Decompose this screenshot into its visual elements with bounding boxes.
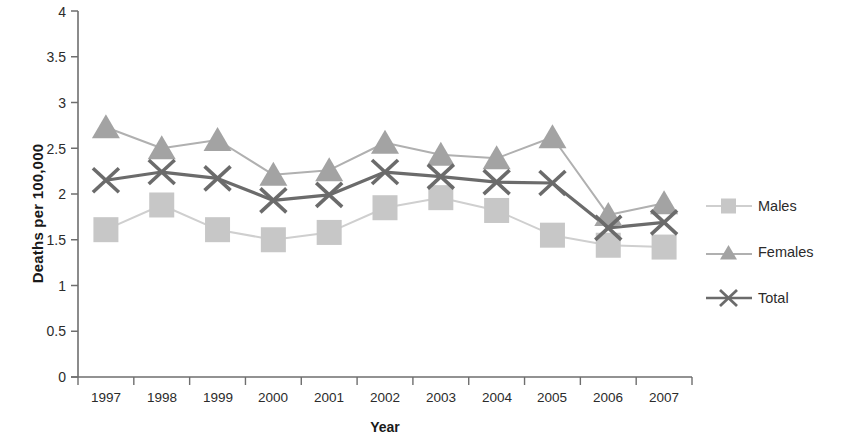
data-point-females-2006 [594,202,622,226]
x-marker-icon [706,288,752,308]
data-point-females-1999 [204,127,232,151]
data-point-males-2007 [652,235,677,260]
data-point-females-2002 [371,130,399,154]
data-point-males-2000 [261,227,286,252]
data-point-females-2007 [650,190,678,214]
legend-item-females[interactable]: Females [706,242,814,262]
data-point-males-1998 [149,192,174,217]
y-axis-ticks [71,11,78,377]
data-point-males-2003 [428,185,453,210]
legend-label-females: Females [758,244,814,260]
x-axis-ticks [78,377,692,385]
series-markers [92,114,678,259]
triangle-marker-icon [706,242,752,262]
data-point-females-2001 [315,157,343,181]
data-point-males-2004 [484,198,509,223]
data-point-males-1999 [205,217,230,242]
line-chart: Deaths per 100,000 Year 4 3.5 3 2.5 2 1.… [0,0,856,443]
legend-item-total[interactable]: Total [706,288,789,308]
data-point-males-2005 [540,223,565,248]
data-point-males-2002 [373,195,398,220]
data-point-females-2005 [538,124,566,148]
square-marker-icon [706,196,752,216]
plot-area [0,0,856,443]
data-point-males-2001 [317,220,342,245]
data-point-females-1997 [92,114,120,138]
legend-label-total: Total [758,290,789,306]
data-point-females-2003 [427,142,455,166]
legend-label-males: Males [758,198,797,214]
plot-svg [0,0,856,443]
legend-item-males[interactable]: Males [706,196,797,216]
data-point-males-1997 [93,217,118,242]
